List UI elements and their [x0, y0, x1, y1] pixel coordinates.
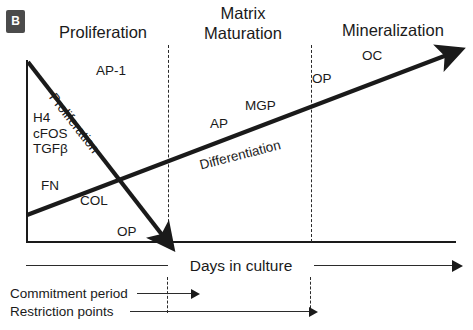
stage-divider-proliferation-matrix	[168, 45, 169, 242]
commitment-period-tick	[167, 277, 168, 313]
marker-label-col: COL	[80, 193, 108, 208]
days-axis-arrowhead	[452, 260, 463, 272]
marker-label-tgfb: TGFβ	[33, 141, 68, 157]
stage-heading-proliferation: Proliferation	[28, 22, 178, 42]
commitment-period-label: Commitment period	[10, 285, 128, 302]
y-axis-line	[26, 60, 28, 242]
stage-heading-matrix-maturation: Matrix Maturation	[183, 3, 303, 43]
marker-label-group-early-genes: H4 cFOS TGFβ	[33, 110, 68, 157]
trend-curves	[0, 0, 473, 330]
marker-label-mgp: MGP	[245, 98, 276, 113]
restriction-points-label: Restriction points	[10, 303, 114, 320]
marker-label-ap1: AP-1	[96, 63, 126, 78]
figure-panel: B Proliferation Matrix Maturation Minera…	[0, 0, 473, 330]
days-in-culture-axis: Days in culture	[26, 256, 458, 276]
days-axis-rule-right	[314, 265, 454, 266]
curve-annotation-differentiation: Differentiation	[198, 137, 282, 172]
stage-heading-mineralization: Mineralization	[318, 20, 468, 40]
commitment-period-rule	[137, 293, 193, 294]
marker-label-fn: FN	[41, 178, 59, 193]
x-axis-line	[26, 241, 456, 243]
stage-heading-matrix-line2: Maturation	[183, 23, 303, 43]
marker-label-op-early: OP	[117, 224, 137, 239]
marker-label-oc: OC	[362, 48, 382, 63]
marker-label-ap: AP	[210, 116, 228, 131]
commitment-period-arrowhead	[191, 289, 200, 299]
marker-label-cfos: cFOS	[33, 126, 68, 142]
stage-heading-matrix-line1: Matrix	[183, 3, 303, 23]
days-in-culture-label: Days in culture	[176, 256, 306, 275]
panel-label-badge: B	[6, 10, 25, 33]
marker-label-h4: H4	[33, 110, 68, 126]
days-axis-rule-left	[26, 265, 168, 266]
marker-label-op-late: OP	[312, 71, 332, 86]
restriction-points-rule	[130, 311, 315, 312]
restriction-points-arrowhead	[309, 307, 318, 317]
